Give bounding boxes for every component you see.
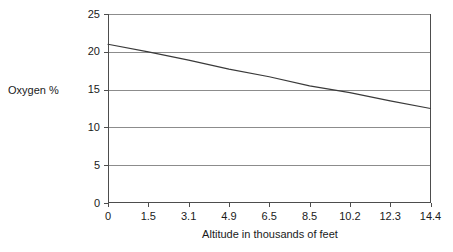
x-tick-label: 1.5	[127, 211, 169, 222]
x-tick-label: 6.5	[248, 211, 290, 222]
x-tick-label: 10.2	[329, 211, 371, 222]
x-tick-label: 14.4	[410, 211, 452, 222]
x-axis-title: Altitude in thousands of feet	[108, 228, 432, 241]
y-axis-tick-marks	[104, 15, 108, 204]
x-axis-tick-marks	[109, 203, 432, 207]
gridlines	[108, 15, 431, 166]
y-tick-label: 20	[60, 46, 100, 57]
x-tick-label: 8.5	[289, 211, 331, 222]
plot-svg	[108, 14, 431, 203]
x-tick-label: 12.3	[369, 211, 411, 222]
oxygen-series-line	[108, 44, 431, 108]
plot-area	[108, 14, 431, 203]
x-tick-label: 0	[87, 211, 129, 222]
oxygen-vs-altitude-line-chart: Oxygen % 0510152025 01.53.14.96.58.510.2…	[0, 0, 453, 252]
x-tick-label: 3.1	[168, 211, 210, 222]
y-tick-label: 0	[60, 198, 100, 209]
x-tick-label: 4.9	[208, 211, 250, 222]
y-tick-label: 15	[60, 84, 100, 95]
y-tick-label: 25	[60, 9, 100, 20]
y-tick-label: 5	[60, 160, 100, 171]
y-tick-label: 10	[60, 122, 100, 133]
